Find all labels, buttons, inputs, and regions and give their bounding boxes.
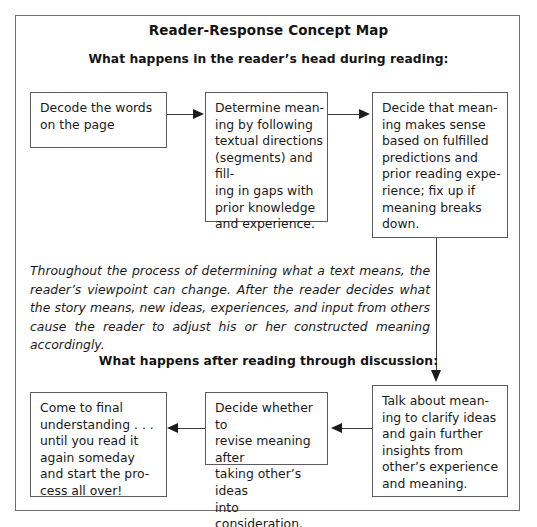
figure-title: Reader-Response Concept Map [0,22,537,38]
section-heading-top: What happens in the reader’s head during… [0,52,537,66]
explanatory-paragraph: Throughout the process of determining wh… [30,262,430,355]
concept-map-figure: Reader-Response Concept Map What happens… [0,0,537,527]
node-decide-meaning-makes-sense: Decide that mean- ing makes sense based … [372,92,508,238]
node-come-to-final-understanding: Come to final understanding . . . until … [30,392,167,497]
node-decide-whether-to-revise: Decide whether to revise meaning after t… [205,392,328,465]
node-talk-about-meaning: Talk about mean- ing to clarify ideas an… [372,385,508,497]
section-heading-bottom: What happens after reading through discu… [0,354,537,368]
node-decode-the-words: Decode the words on the page [30,92,167,148]
node-determine-meaning: Determine mean- ing by following textual… [205,92,328,222]
